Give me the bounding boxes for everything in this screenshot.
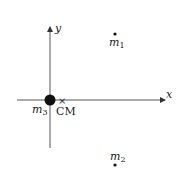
mass-m2-label: m2 [110,150,126,164]
mass-m2-dot [113,163,116,166]
cm-label: CM [56,105,76,118]
mass-m3-dot [45,95,56,106]
mass-m1-label: m1 [109,36,125,50]
x-axis-label: x [166,88,173,101]
mass-m3-label: m3 [32,103,48,117]
y-axis-label: y [54,22,62,35]
cm-diagram: x y m3 × CM m1 m2 [0,0,187,174]
